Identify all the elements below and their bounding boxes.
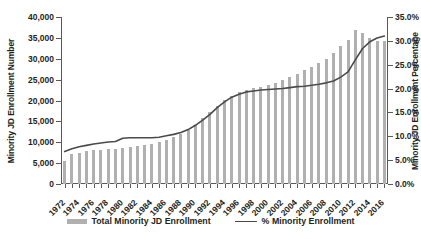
- x-axis-tick: [370, 184, 371, 188]
- y-axis-right-tick: [388, 65, 393, 66]
- x-axis-tick: [275, 184, 276, 188]
- y-axis-right-tick-label: 35.0%: [395, 12, 419, 22]
- x-axis-tick: [86, 184, 87, 188]
- y-axis-right-tick-label: 30.0%: [395, 36, 419, 46]
- y-axis-left-tick: [56, 17, 61, 18]
- y-axis-right-tick: [388, 17, 393, 18]
- percent-minority-enrollment-line: [65, 36, 385, 151]
- x-axis-tick: [297, 184, 298, 188]
- x-axis-tick: [145, 184, 146, 188]
- y-axis-left-tick: [56, 59, 61, 60]
- x-axis-tick: [203, 184, 204, 188]
- x-axis-tick: [116, 184, 117, 188]
- x-axis-tick: [319, 184, 320, 188]
- y-axis-left-tick: [56, 163, 61, 164]
- x-axis-tick: [159, 184, 160, 188]
- y-axis-right-tick: [388, 184, 393, 185]
- x-axis-tick: [152, 184, 153, 188]
- x-axis-tick: [65, 184, 66, 188]
- y-axis-left-title: Minority JD Enrollment Number: [6, 16, 16, 186]
- x-axis-tick: [312, 184, 313, 188]
- y-axis-right-tick-label: 25.0%: [395, 60, 419, 70]
- x-axis-tick: [246, 184, 247, 188]
- y-axis-right-tick: [388, 112, 393, 113]
- x-axis-tick: [261, 184, 262, 188]
- y-axis-right-tick-label: 5.0%: [395, 155, 414, 165]
- x-axis-tick: [254, 184, 255, 188]
- x-axis-tick: [210, 184, 211, 188]
- x-axis-tick: [341, 184, 342, 188]
- y-axis-right-tick-label: 0.0%: [395, 179, 414, 189]
- y-axis-left-tick-label: 5,000: [33, 158, 54, 168]
- y-axis-left-tick-label: 40,000: [28, 12, 54, 22]
- x-axis-tick: [195, 184, 196, 188]
- legend-label: % Minority Enrollment: [262, 216, 355, 226]
- x-axis-tick: [166, 184, 167, 188]
- y-axis-right-tick-label: 10.0%: [395, 131, 419, 141]
- legend-line-swatch-icon: [235, 221, 257, 222]
- line-series: [61, 17, 388, 184]
- x-axis-tick: [188, 184, 189, 188]
- y-axis-left-tick: [56, 38, 61, 39]
- y-axis-right-tick: [388, 160, 393, 161]
- x-axis-tick: [283, 184, 284, 188]
- x-axis-tick: [377, 184, 378, 188]
- y-axis-left-tick-label: 10,000: [28, 137, 54, 147]
- x-axis-tick: [72, 184, 73, 188]
- x-axis-tick: [130, 184, 131, 188]
- y-axis-left-tick: [56, 101, 61, 102]
- y-axis-left-tick-label: 15,000: [28, 116, 54, 126]
- x-axis-tick: [363, 184, 364, 188]
- y-axis-left-tick-label: 35,000: [28, 33, 54, 43]
- y-axis-left-tick-label: 20,000: [28, 96, 54, 106]
- x-axis-tick: [348, 184, 349, 188]
- x-axis-tick: [326, 184, 327, 188]
- y-axis-left-tick: [56, 184, 61, 185]
- legend-label: Total Minority JD Enrollment: [92, 216, 211, 226]
- x-axis-tick: [239, 184, 240, 188]
- x-axis-tick: [174, 184, 175, 188]
- legend-item-percent-minority-enrollment: % Minority Enrollment: [235, 216, 355, 226]
- y-axis-left-tick: [56, 80, 61, 81]
- y-axis-left-tick-label: 0: [49, 179, 54, 189]
- chart-figure: Minority JD Enrollment Number Minority J…: [0, 0, 421, 239]
- y-axis-left-tick-label: 30,000: [28, 54, 54, 64]
- y-axis-left-tick-label: 25,000: [28, 75, 54, 85]
- x-axis-tick: [232, 184, 233, 188]
- x-axis-tick: [217, 184, 218, 188]
- x-axis-tick: [94, 184, 95, 188]
- x-axis-tick: [225, 184, 226, 188]
- legend-item-total-minority-jd-enrollment: Total Minority JD Enrollment: [67, 216, 211, 226]
- plot-area: 40,00035,00030,00025,00020,00015,00010,0…: [61, 17, 388, 184]
- y-axis-right-tick: [388, 41, 393, 42]
- x-axis-tick: [384, 184, 385, 188]
- x-axis-tick: [123, 184, 124, 188]
- x-axis-tick: [108, 184, 109, 188]
- x-axis-tick: [304, 184, 305, 188]
- x-axis-tick: [101, 184, 102, 188]
- chart-legend: Total Minority JD Enrollment % Minority …: [0, 216, 421, 226]
- x-axis-tick: [79, 184, 80, 188]
- x-axis-tick: [334, 184, 335, 188]
- y-axis-right-tick-label: 15.0%: [395, 107, 419, 117]
- x-axis-tick: [268, 184, 269, 188]
- y-axis-right-tick: [388, 89, 393, 90]
- y-axis-left-tick: [56, 142, 61, 143]
- y-axis-left-tick: [56, 121, 61, 122]
- y-axis-right-tick-label: 20.0%: [395, 84, 419, 94]
- y-axis-right-tick: [388, 136, 393, 137]
- x-axis-tick: [355, 184, 356, 188]
- x-axis-tick: [137, 184, 138, 188]
- x-axis-tick: [290, 184, 291, 188]
- legend-bar-swatch-icon: [67, 219, 87, 224]
- x-axis-tick: [181, 184, 182, 188]
